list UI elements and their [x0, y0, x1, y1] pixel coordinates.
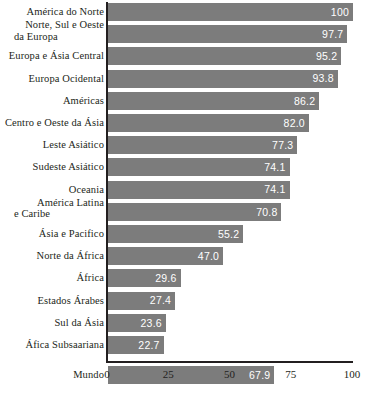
category-label: Ásia e Pacifico [0, 228, 104, 240]
x-tick-label: 75 [285, 368, 296, 381]
bar-row: Leste Asiático77.3 [0, 136, 365, 154]
category-label: Centro e Oeste da Ásia [0, 117, 104, 129]
x-axis-tick-labels: 0255075100 [0, 368, 365, 388]
bar-value-label: 82.0 [284, 118, 305, 129]
bar: 23.6 [108, 314, 166, 332]
category-label: Sul da Ásia [0, 317, 104, 329]
category-label: Estados Árabes [0, 295, 104, 307]
bar-row: Áfica Subsaariana22.7 [0, 336, 365, 354]
bar-value-label: 29.6 [155, 273, 176, 284]
bar-value-label: 74.1 [264, 162, 285, 173]
bar: 47.0 [108, 247, 223, 265]
bar-value-label: 74.1 [264, 184, 285, 195]
bar: 97.7 [108, 25, 347, 43]
bar-value-label: 95.2 [316, 51, 337, 62]
category-label: Américas [0, 95, 104, 107]
bar: 74.1 [108, 158, 290, 176]
category-label: Oceania [0, 184, 104, 196]
bar-row: América Latinae Caribe70.8 [0, 203, 365, 221]
bar-value-label: 23.6 [141, 318, 162, 329]
bar: 86.2 [108, 92, 319, 110]
category-label-line1: América Latina [37, 197, 104, 208]
bar: 82.0 [108, 114, 309, 132]
bar-row: África29.6 [0, 269, 365, 287]
bar-value-label: 100 [331, 7, 349, 18]
category-label-line2: e Caribe [0, 208, 104, 220]
bar-value-label: 77.3 [272, 140, 293, 151]
bar: 93.8 [108, 70, 338, 88]
bar: 70.8 [108, 203, 281, 221]
bar-value-label: 27.4 [150, 295, 171, 306]
bar: 77.3 [108, 136, 297, 154]
bar: 100 [108, 3, 353, 21]
bar-row: Norte, Sul e Oesteda Europa97.7 [0, 25, 365, 43]
bar: 27.4 [108, 292, 175, 310]
bar-value-label: 97.7 [322, 29, 343, 40]
bar: 55.2 [108, 225, 243, 243]
bar: 22.7 [108, 336, 164, 354]
plot-area: América do Norte100Norte, Sul e Oesteda … [0, 0, 365, 362]
bar: 29.6 [108, 269, 181, 287]
category-label-line2: da Europa [0, 31, 104, 43]
category-label: Leste Asiático [0, 139, 104, 151]
bar-chart: América do Norte100Norte, Sul e Oesteda … [0, 0, 365, 400]
x-tick-label: 100 [344, 368, 361, 381]
y-axis-line [106, 2, 108, 362]
x-tick-label: 50 [224, 368, 235, 381]
category-label: América Latinae Caribe [0, 197, 104, 220]
bar-row: Sul da Ásia23.6 [0, 314, 365, 332]
bar-row: Américas86.2 [0, 92, 365, 110]
x-tick-label: 25 [163, 368, 174, 381]
bar-row: Europa Ocidental93.8 [0, 70, 365, 88]
bar-row: Europa e Ásia Central95.2 [0, 47, 365, 65]
bar-row: Centro e Oeste da Ásia82.0 [0, 114, 365, 132]
category-label: América do Norte [0, 6, 104, 18]
bar-row: Estados Árabes27.4 [0, 292, 365, 310]
bar-value-label: 93.8 [313, 73, 334, 84]
x-tick-label: 0 [104, 368, 110, 381]
bar-row: Norte da África47.0 [0, 247, 365, 265]
category-label: Norte, Sul e Oesteda Europa [0, 19, 104, 42]
bar-value-label: 47.0 [198, 251, 219, 262]
bar: 95.2 [108, 47, 341, 65]
bar-row: Ásia e Pacifico55.2 [0, 225, 365, 243]
bar-value-label: 70.8 [256, 207, 277, 218]
category-label: Europa e Ásia Central [0, 50, 104, 62]
bar: 74.1 [108, 181, 290, 199]
category-label: Sudeste Asiático [0, 161, 104, 173]
bar-row: Sudeste Asiático74.1 [0, 158, 365, 176]
category-label-line1: Norte, Sul e Oeste [25, 19, 104, 30]
x-axis-line [106, 361, 353, 363]
category-label: Áfica Subsaariana [0, 339, 104, 351]
category-label: África [0, 272, 104, 284]
category-label: Norte da África [0, 250, 104, 262]
bar-value-label: 86.2 [294, 96, 315, 107]
bar-value-label: 55.2 [218, 229, 239, 240]
bar-value-label: 22.7 [138, 340, 159, 351]
category-label: Europa Ocidental [0, 73, 104, 85]
